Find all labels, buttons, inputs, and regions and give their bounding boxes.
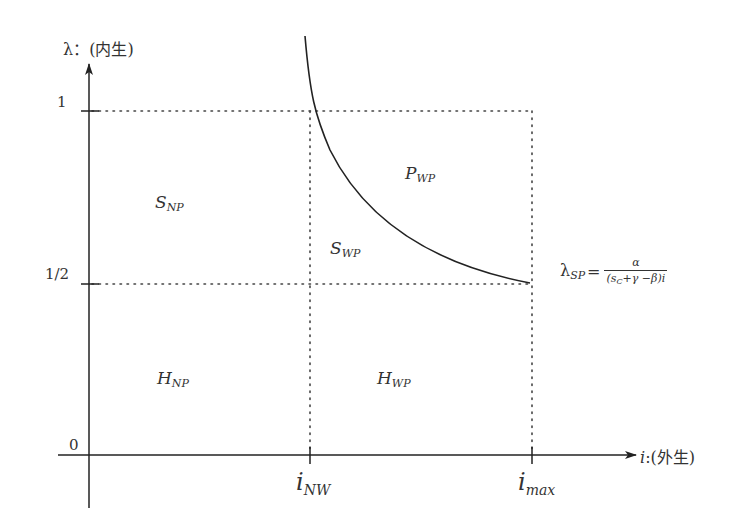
formula-equals: =: [587, 262, 600, 281]
y-axis-title-text: ：(内生): [73, 40, 133, 59]
formula-denominator: (sC+γ −β)i: [604, 270, 667, 286]
x-tick-label-i-nw: iNW: [296, 468, 330, 498]
y-tick-label-half: 1/2: [45, 265, 69, 283]
lambda-sp-formula: λSP = α (sC+γ −β)i: [560, 256, 667, 286]
y-tick-label-0: 0: [69, 436, 79, 454]
region-p-wp: PWP: [405, 163, 435, 185]
formula-fraction: α (sC+γ −β)i: [604, 256, 667, 286]
formula-numerator: α: [630, 256, 641, 270]
y-axis-symbol: λ: [63, 40, 73, 59]
region-h-wp: HWP: [377, 368, 411, 390]
region-h-np: HNP: [157, 368, 189, 390]
region-s-np: SNP: [155, 192, 184, 214]
formula-lhs: λSP: [560, 261, 585, 282]
y-axis-title: λ：(内生): [63, 36, 134, 60]
region-s-wp: SWP: [330, 238, 360, 260]
y-tick-label-1: 1: [57, 93, 67, 111]
x-tick-label-i-max: imax: [518, 468, 555, 498]
axes: [58, 64, 636, 508]
x-axis-title: i:(外生): [640, 444, 695, 468]
dotted-guides: [92, 111, 532, 452]
x-axis-title-text: :(外生): [645, 448, 695, 467]
